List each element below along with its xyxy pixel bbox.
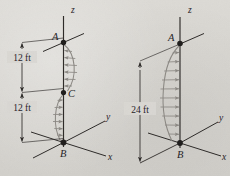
right-axis-label-y: y (218, 113, 224, 123)
left-x-axis (64, 143, 107, 157)
right-ground-line-neg-y (140, 143, 180, 163)
left-point-A-marker (61, 40, 66, 45)
left-point-label-C: C (68, 88, 76, 99)
right-axis-label-z: z (187, 5, 192, 15)
right-load-envelope (163, 45, 180, 141)
right-diagram: 24 ft z y x A B (124, 5, 227, 163)
right-point-B-marker (177, 140, 183, 146)
left-dim-upper-label: 12 ft (13, 53, 31, 63)
figure-canvas: 12 ft 12 ft z y x A C B (0, 0, 230, 176)
left-dim-lower-label: 12 ft (13, 103, 31, 113)
left-axis-label-z: z (70, 5, 75, 15)
left-point-B-marker (61, 140, 67, 146)
engineering-figure-svg: 12 ft 12 ft z y x A C B (0, 0, 230, 176)
left-load-upper (64, 44, 78, 91)
right-load-full (160, 45, 180, 141)
left-y-axis (64, 121, 106, 143)
left-point-label-A: A (51, 31, 59, 42)
left-load-lower-envelope (55, 94, 63, 141)
left-point-C-marker (61, 90, 66, 95)
right-point-A-marker (177, 41, 183, 47)
right-dim-full-label: 24 ft (131, 105, 149, 115)
left-axis-label-x: x (107, 152, 113, 162)
right-x-axis (180, 143, 221, 156)
left-axis-label-y: y (105, 112, 111, 122)
left-ext-line-c (22, 89, 64, 93)
left-load-lower (53, 94, 64, 141)
right-y-axis (180, 122, 218, 143)
right-point-label-B: B (177, 149, 184, 160)
left-diagram: 12 ft 12 ft z y x A C B (7, 5, 113, 162)
right-axis-label-x: x (221, 152, 227, 162)
right-point-label-A: A (167, 32, 175, 43)
right-support-line-a (180, 34, 204, 45)
left-point-label-B: B (60, 148, 67, 159)
left-ground-line-neg-y (33, 143, 64, 159)
